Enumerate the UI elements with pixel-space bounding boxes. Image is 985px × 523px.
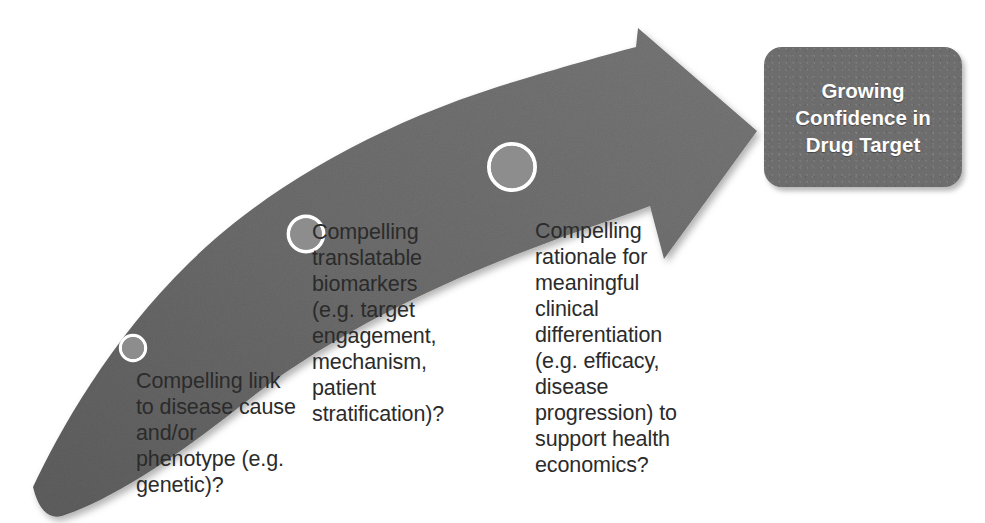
milestone-caption-3: Compelling rationale for meaningful clin… <box>535 218 695 478</box>
diagram-canvas: Compelling link to disease cause and/or … <box>0 0 985 523</box>
milestone-marker-1 <box>121 336 146 361</box>
outcome-box-label: Growing Confidence in Drug Target <box>795 77 931 158</box>
milestone-marker-3 <box>489 144 535 190</box>
milestone-caption-2: Compelling translatable biomarkers (e.g.… <box>312 219 482 427</box>
milestone-caption-1: Compelling link to disease cause and/or … <box>136 368 341 498</box>
outcome-box: Growing Confidence in Drug Target <box>764 47 962 187</box>
